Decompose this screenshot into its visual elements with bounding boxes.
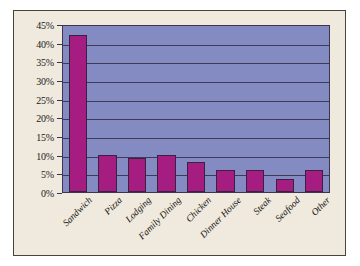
x-tick-label: Steak xyxy=(251,195,273,217)
bar-slot xyxy=(122,26,152,192)
y-tick-label: 0% xyxy=(41,188,54,199)
y-tick-label: 5% xyxy=(41,169,54,180)
y-tick-label: 20% xyxy=(36,113,54,124)
x-axis: SandwichPizzaLodgingFamily DiningChicken… xyxy=(62,195,330,255)
y-tick-label: 30% xyxy=(36,76,54,87)
bar-slot xyxy=(181,26,211,192)
y-tick-label: 25% xyxy=(36,94,54,105)
bar xyxy=(305,170,323,192)
bar xyxy=(98,155,116,192)
bar-slot xyxy=(270,26,300,192)
bar xyxy=(128,158,146,192)
bar-slot xyxy=(300,26,330,192)
x-tick-label: Seafood xyxy=(274,195,303,224)
y-tick-label: 35% xyxy=(36,57,54,68)
y-tick-label: 10% xyxy=(36,150,54,161)
x-tick-label: Sandwich xyxy=(61,195,94,228)
y-tick-label: 45% xyxy=(36,20,54,31)
chart-canvas: 0%5%10%15%20%25%30%35%40%45% SandwichPiz… xyxy=(13,10,346,256)
y-tick-label: 40% xyxy=(36,38,54,49)
bar-series xyxy=(63,26,329,192)
bar xyxy=(216,170,234,192)
y-axis: 0%5%10%15%20%25%30%35%40%45% xyxy=(14,25,58,193)
bar-slot xyxy=(93,26,123,192)
y-tick-mark xyxy=(57,193,62,194)
x-tick-label: Other xyxy=(309,195,332,218)
bar xyxy=(246,170,264,192)
bar xyxy=(187,162,205,192)
bar-slot xyxy=(152,26,182,192)
x-tick-label: Chicken xyxy=(184,195,213,224)
y-tick-label: 15% xyxy=(36,132,54,143)
bar xyxy=(69,35,87,192)
plot-area xyxy=(62,25,330,193)
bar-slot xyxy=(63,26,93,192)
bar xyxy=(276,179,294,192)
bar xyxy=(157,155,175,192)
bar-slot xyxy=(240,26,270,192)
chart-screenshot: 0%5%10%15%20%25%30%35%40%45% SandwichPiz… xyxy=(0,0,360,266)
bar-slot xyxy=(211,26,241,192)
x-tick-label: Pizza xyxy=(102,195,124,217)
